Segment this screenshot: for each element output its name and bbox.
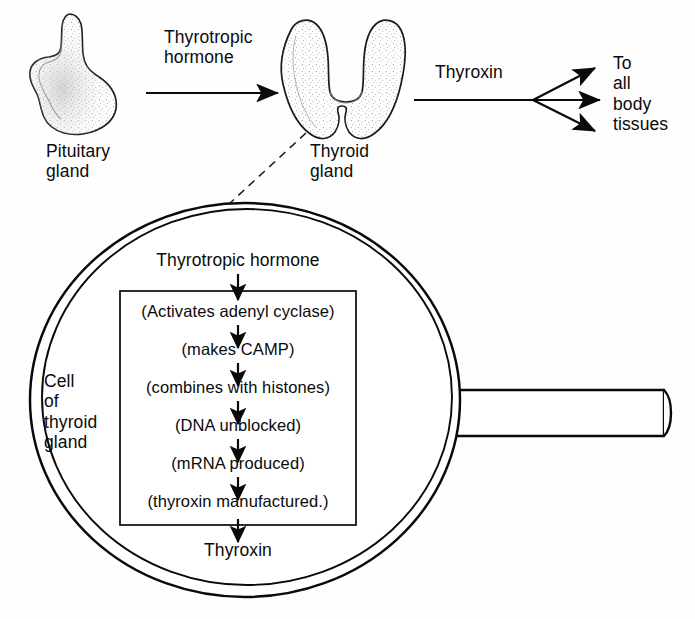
process-step-2: (makes CAMP) [113,340,363,359]
destination-label: To all body tissues [613,53,668,134]
process-step-5: (mRNA produced) [113,454,363,473]
thyroid-gland-label: Thyroid gland [310,141,369,182]
process-step-3: (combines with histones) [113,378,363,397]
magnifier-output-label: Thyroxin [158,540,318,560]
pituitary-gland-label: Pituitary gland [46,141,110,182]
magnifier-input-label: Thyrotropic hormone [138,250,338,270]
dashed-leader-line [229,133,306,204]
process-step-6: (thyroxin manufactured.) [110,492,366,511]
thyroid-hormone-diagram: Pituitary gland Thyrotropic hormone Thyr… [0,0,695,619]
pituitary-gland-icon [30,14,117,134]
process-step-4: (DNA unblocked) [113,416,363,435]
cell-of-thyroid-gland-label: Cell of thyroid gland [44,371,97,452]
thyroxin-arrow-label: Thyroxin [435,62,503,82]
thyrotropic-hormone-arrow-label: Thyrotropic hormone [164,27,253,68]
thyroid-gland-icon [281,20,405,138]
process-step-1: (Activates adenyl cyclase) [113,302,363,321]
